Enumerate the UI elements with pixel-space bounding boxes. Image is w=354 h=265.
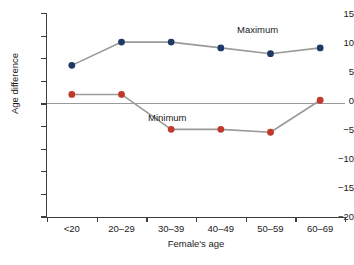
y-tick-0-upper bbox=[41, 81, 46, 82]
x-tick-5 bbox=[295, 217, 296, 222]
data-point-maximum-3 bbox=[217, 45, 224, 52]
x-tick-label-20-29: 20–29 bbox=[95, 224, 149, 234]
y-tick-m20 bbox=[41, 216, 46, 217]
x-tick-6 bbox=[345, 217, 346, 222]
x-tick-label-under20: <20 bbox=[45, 224, 99, 234]
x-tick-2 bbox=[146, 217, 147, 222]
x-tick-1 bbox=[97, 217, 98, 222]
zero-reference-line bbox=[47, 103, 345, 104]
y-tick-label-m15: −15 bbox=[318, 183, 354, 193]
y-tick-label-m20: −20 bbox=[318, 212, 354, 222]
data-point-maximum-4 bbox=[267, 50, 274, 57]
series-maximum bbox=[68, 39, 323, 69]
data-point-maximum-2 bbox=[168, 39, 175, 46]
data-point-minimum-4 bbox=[267, 129, 274, 136]
data-point-maximum-1 bbox=[118, 39, 125, 46]
y-tick-label-10: 10 bbox=[318, 38, 354, 48]
y-tick-label-5: 5 bbox=[318, 67, 354, 77]
y-tick-5 bbox=[41, 58, 46, 59]
series-line-minimum bbox=[72, 94, 320, 132]
y-tick-label-m5: −5 bbox=[318, 125, 354, 135]
series-minimum bbox=[68, 91, 323, 136]
x-tick-label-30-39: 30–39 bbox=[144, 224, 198, 234]
x-tick-0 bbox=[47, 217, 48, 222]
x-tick-label-50-59: 50–59 bbox=[243, 224, 297, 234]
series-label-maximum: Maximum bbox=[237, 24, 278, 35]
data-point-minimum-0 bbox=[68, 91, 75, 98]
y-tick-m10 bbox=[41, 149, 46, 150]
data-point-minimum-2 bbox=[168, 126, 175, 133]
y-tick-m5 bbox=[41, 126, 46, 127]
y-tick-0 bbox=[41, 103, 46, 104]
x-axis-title: Female's age bbox=[47, 238, 345, 249]
chart-container: 15 10 5 0 −5 −10 −15 −20 <20 20–29 30–39… bbox=[0, 0, 354, 265]
y-axis-line bbox=[46, 13, 47, 218]
data-point-minimum-3 bbox=[217, 126, 224, 133]
y-tick-m15 bbox=[41, 171, 46, 172]
x-tick-label-40-49: 40–49 bbox=[194, 224, 248, 234]
x-tick-label-60-69: 60–69 bbox=[293, 224, 347, 234]
series-line-maximum bbox=[72, 42, 320, 65]
x-tick-4 bbox=[246, 217, 247, 222]
y-axis-title: Age difference bbox=[9, 36, 20, 132]
y-tick-10 bbox=[41, 36, 46, 37]
y-tick-label-m10: −10 bbox=[318, 154, 354, 164]
data-point-minimum-1 bbox=[118, 91, 125, 98]
series-label-minimum: Minimum bbox=[148, 112, 187, 123]
y-tick-m15b bbox=[41, 194, 46, 195]
data-point-maximum-0 bbox=[68, 62, 75, 69]
y-tick-label-15: 15 bbox=[318, 9, 354, 19]
x-tick-3 bbox=[196, 217, 197, 222]
y-tick-15 bbox=[41, 13, 46, 14]
